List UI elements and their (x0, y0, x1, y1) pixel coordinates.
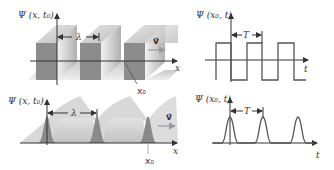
panel-square-wave-time: Ψ (x₀, t) t T (196, 10, 308, 82)
y-axis-label: Ψ (x₀, t) (196, 10, 232, 20)
panel-pulse-train-time: Ψ (x₀, t) t T (195, 94, 320, 160)
y-axis-label: Ψ (x₀, t) (195, 94, 231, 104)
t-axis-label: t (304, 64, 308, 74)
velocity-label: v⃗ (153, 36, 159, 46)
square-wave-line (216, 43, 306, 80)
period-label: T (244, 106, 251, 116)
x0-label: x₀ (145, 156, 154, 166)
t-axis-label: t (316, 150, 320, 160)
y-axis-label: Ψ (x, t₀) (8, 96, 44, 106)
square-wave-surface (28, 25, 178, 80)
x-axis-label: x (175, 63, 180, 73)
y-axis-label: Ψ (x, t₀) (18, 10, 54, 20)
period-label: T (243, 30, 250, 40)
x-axis-label: x (173, 146, 178, 156)
wave-diagram: Ψ (x, t₀) x λ v⃗ x₀ Ψ (x₀, t) t T (0, 0, 334, 170)
x0-label: x₀ (137, 86, 146, 96)
panel-pulse-train-space: Ψ (x, t₀) x λ v⃗ x₀ (8, 96, 178, 166)
pulse-train-line (213, 117, 314, 143)
velocity-label: v⃗ (166, 112, 172, 122)
wavelength-label: λ (70, 108, 77, 118)
panel-square-wave-space: Ψ (x, t₀) x λ v⃗ x₀ (18, 10, 180, 96)
wavelength-label: λ (75, 32, 82, 42)
